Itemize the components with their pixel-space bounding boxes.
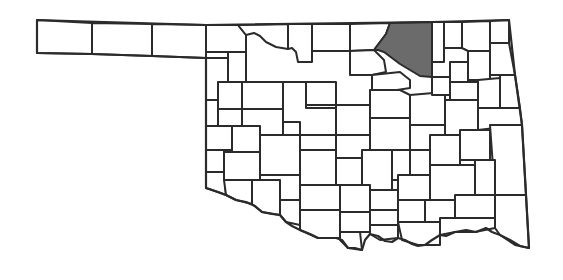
county-payne: [370, 90, 410, 118]
county-ottawa: [490, 20, 509, 43]
county-bryan: [398, 222, 440, 245]
oklahoma-county-map: [0, 0, 563, 280]
county-okfuskee: [410, 150, 430, 175]
county-creek: [410, 92, 445, 125]
county-dewey: [218, 82, 242, 109]
county-rogers: [450, 62, 468, 82]
county-canadian: [300, 135, 336, 150]
county-cimarron: [37, 20, 92, 54]
county-nowata: [444, 22, 462, 48]
county-pontotoc: [370, 190, 398, 210]
county-map-svg: [0, 0, 563, 280]
county-tillman: [252, 180, 280, 215]
county-coal: [398, 200, 425, 222]
county-cleveland: [336, 158, 362, 185]
county-washita: [232, 126, 260, 152]
county-jefferson: [300, 210, 340, 238]
county-blaine: [242, 82, 283, 109]
county-pushmataha: [455, 195, 495, 218]
county-hughes: [398, 175, 430, 200]
county-greer: [206, 150, 224, 172]
county-mcintosh: [430, 135, 460, 165]
county-garvin: [340, 185, 370, 212]
county-washington: [432, 22, 444, 62]
county-tulsa: [432, 77, 450, 95]
county-marshall: [370, 225, 398, 240]
county-lincoln: [370, 118, 410, 150]
county-mayes: [468, 51, 490, 80]
county-beckham: [206, 126, 232, 150]
county-cherokee: [478, 78, 500, 108]
county-latimer: [475, 160, 495, 195]
county-grady: [300, 150, 336, 185]
county-cotton: [280, 200, 300, 225]
county-murray: [370, 210, 398, 225]
county-grant: [312, 24, 350, 51]
county-haskell: [460, 130, 490, 160]
county-wagoner: [450, 82, 478, 100]
county-stephens: [300, 185, 340, 210]
county-garfield: [306, 82, 336, 105]
county-logan: [336, 105, 370, 135]
county-choctaw: [440, 218, 495, 235]
county-kiowa: [224, 152, 260, 180]
county-woodward2: [228, 52, 246, 82]
county-texas: [92, 23, 152, 56]
county-craig: [462, 21, 490, 51]
county-beaver: [152, 24, 206, 58]
county-alfalfa: [288, 24, 312, 62]
county-roger-mills: [206, 100, 218, 126]
county-noble: [350, 50, 386, 75]
county-carter: [340, 212, 370, 232]
county-caddo: [260, 135, 300, 175]
